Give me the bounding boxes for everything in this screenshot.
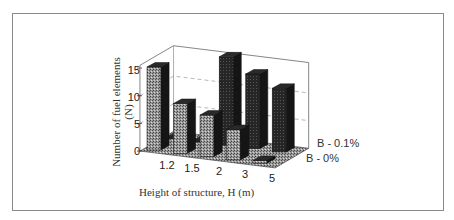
x-tick-3: 3: [242, 168, 248, 180]
bar-chart-3d: 15 10 5 0 1.2 1.5 2 3 5 B - 0.1% B - 0% …: [0, 0, 454, 220]
y-tick-15: 15: [128, 64, 140, 76]
x-tick-2: 2: [216, 165, 222, 177]
bar: [200, 115, 214, 157]
x-tick-1-2: 1.2: [159, 159, 174, 171]
y-tick-5: 5: [134, 118, 140, 130]
y-tick-10: 10: [128, 91, 140, 103]
depth-label-b-0: B - 0%: [306, 152, 339, 164]
depth-label-b-0-1: B - 0.1%: [317, 137, 359, 149]
x-tick-1-5: 1.5: [184, 162, 199, 174]
bar: [272, 88, 286, 152]
bar: [227, 129, 241, 159]
x-tick-5: 5: [269, 172, 275, 184]
y-axis-title-line1: Number of fuel elements: [110, 57, 122, 167]
x-axis-title: Height of structure, H (m): [139, 186, 254, 199]
y-tick-0: 0: [134, 145, 140, 157]
y-axis-title-line2: (N): [122, 104, 135, 120]
bar: [147, 67, 161, 150]
bar: [253, 160, 267, 163]
plot-area: [137, 46, 309, 168]
bar: [174, 104, 188, 154]
